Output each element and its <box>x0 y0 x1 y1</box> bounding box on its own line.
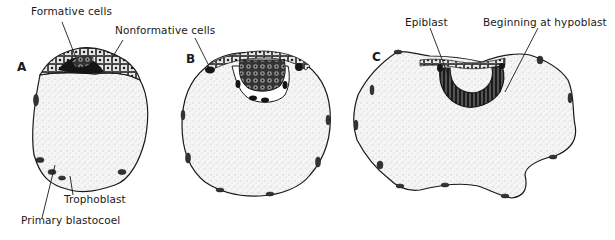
label-primary-blastocoel: Primary blastocoel <box>21 214 120 226</box>
panel-b-embryo <box>181 51 330 196</box>
label-epiblast: Epiblast <box>405 16 448 28</box>
panel-c-embryo <box>354 50 576 198</box>
panel-c-letter: C <box>372 50 381 64</box>
panel-b-letter: B <box>186 52 195 66</box>
label-nonformative-cells: Nonformative cells <box>115 24 215 36</box>
label-formative-cells: Formative cells <box>31 5 112 17</box>
panel-b-leader-line <box>195 38 208 64</box>
panel-a-embryo <box>33 48 148 192</box>
label-beginning-at-hypoblast: Beginning at hypoblast <box>483 16 607 28</box>
panel-a-letter: A <box>17 60 26 74</box>
blastocyst-diagram: A Formative cells Nonformative cells Tro… <box>0 0 615 240</box>
label-trophoblast: Trophoblast <box>64 193 126 205</box>
